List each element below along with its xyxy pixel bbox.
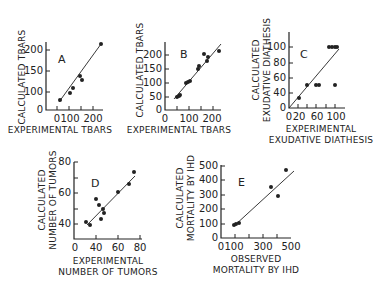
panel-c-xlabel-line2: EXUDATIVE DIATHESIS [269, 135, 373, 145]
panel-c-xtick: 20 [293, 111, 306, 122]
panel-e: 500 400 300 200 100 0 0 100 300 500 E [175, 155, 301, 275]
panel-d-axes [74, 162, 142, 239]
panel-c-axes [289, 32, 345, 108]
panel-d-ytick: 40 [58, 218, 71, 229]
panel-c-ylabel-line2: EXUDATIVE DIATHESIS [262, 18, 272, 122]
panel-e-axes [221, 165, 291, 238]
panel-d-ylabel-line2: NUMBER OF TUMORS [48, 150, 58, 249]
panel-c: 100 80 60 40 0 0 20 60 100 [251, 18, 373, 145]
panel-e-ylabel-line2: MORTALITY BY IHD [186, 155, 196, 242]
panel-e-ylabel-line1: CALCULATED [175, 167, 185, 228]
panel-a-letter: A [58, 53, 66, 66]
panel-a-ylabel: CALCULATED TBARS [17, 29, 27, 124]
panel-e-xtick: 300 [253, 241, 272, 252]
panel-c-ytick: 40 [273, 87, 286, 98]
panel-b-ylabel: CALCULATED TBARS [135, 22, 145, 117]
panel-b-letter: B [180, 48, 188, 61]
panel-d-xlabel-line2: NUMBER OF TUMORS [58, 267, 157, 277]
panel-c-ytick: 60 [273, 72, 286, 83]
panel-c-xticks: 0 20 60 100 [286, 104, 346, 122]
panel-e-ytick: 100 [199, 218, 218, 229]
panel-a: 200 150 100 0 0 100 200 A EXPERIMENTAL T… [8, 29, 112, 135]
panel-d-xtick: 40 [90, 242, 103, 253]
panel-b-xlabel: EXPERIMENTAL TBARS [127, 125, 231, 135]
panel-a-axes [46, 42, 103, 110]
panel-e-letter: E [238, 176, 245, 189]
panel-d-ytick: 80 [58, 156, 71, 167]
panel-d-xtick: 0 [72, 242, 78, 253]
panel-b-ytick: 50 [149, 91, 162, 102]
panel-b-xtick: 200 [202, 113, 221, 124]
panel-a-xtick: 0 [54, 113, 60, 124]
panel-e-xlabel-line2: MORTALITY BY IHD [213, 265, 300, 275]
panel-c-fit-line [289, 49, 339, 108]
panel-b-xtick: 0 [162, 113, 168, 124]
panel-c-ylabel-line1: CALCULATED [251, 39, 261, 100]
panel-b-ytick: 150 [143, 63, 162, 74]
panel-e-xlabel-line1: OBSERVED [231, 254, 282, 264]
panel-a-xtick: 100 [60, 113, 79, 124]
panel-e-ytick: 400 [199, 174, 218, 185]
panel-c-xtick: 100 [326, 111, 345, 122]
panel-d-yticks: 80 60 40 [58, 156, 78, 229]
panel-d-letter: D [91, 177, 99, 190]
panel-d-xtick: 80 [134, 242, 147, 253]
panel-b-axes [165, 42, 221, 110]
panel-b-xtick: 100 [179, 113, 198, 124]
panel-c-letter: C [300, 48, 308, 61]
panel-a-xticks: 0 100 200 [54, 106, 103, 124]
panel-d-xlabel-line1: EXPERIMENTAL [73, 256, 143, 266]
panel-b-xticks: 0 100 200 [162, 106, 222, 124]
panel-e-ytick: 300 [199, 189, 218, 200]
panel-e-xticks: 0 100 300 500 [218, 234, 301, 252]
panel-d: 80 60 40 0 40 60 80 D EXPERIMENTAL [37, 150, 158, 277]
panel-e-ytick: 200 [199, 203, 218, 214]
panel-d-ytick: 60 [58, 187, 71, 198]
panel-b-ytick: 100 [143, 77, 162, 88]
panel-d-ylabel-line1: CALCULATED [37, 169, 47, 230]
panel-d-xticks: 0 40 60 80 [72, 235, 147, 253]
figure-canvas: 200 150 100 0 0 100 200 A EXPERIMENTAL T… [0, 0, 383, 291]
panel-a-xtick: 200 [83, 113, 102, 124]
panel-e-ytick: 500 [199, 160, 218, 171]
panel-c-xtick: 60 [311, 111, 324, 122]
panel-d-xtick: 60 [112, 242, 125, 253]
panel-e-xtick: 100 [224, 241, 243, 252]
panel-a-ytick: 0 [37, 104, 43, 115]
panel-e-xtick: 500 [281, 241, 300, 252]
panel-c-xlabel-line1: EXPERIMENTAL [286, 124, 356, 134]
panel-c-xtick: 0 [286, 111, 292, 122]
panel-e-xtick: 0 [218, 241, 224, 252]
panel-b: 200 150 100 50 0 0 100 200 [127, 22, 231, 135]
panel-c-ytick: 80 [273, 57, 286, 68]
panel-a-xlabel: EXPERIMENTAL TBARS [8, 125, 112, 135]
panel-b-ytick: 200 [143, 49, 162, 60]
